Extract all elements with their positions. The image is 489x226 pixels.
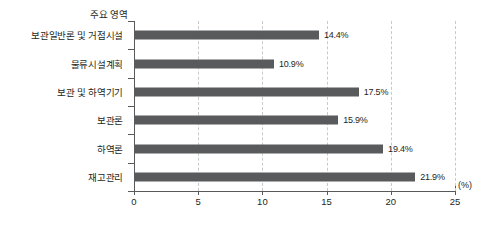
gridline (327, 21, 328, 191)
value-tick-mark (327, 191, 328, 195)
bar-chart: 주요 영역 보관일반론 및 거점시설물류시설계획보관 및 하역기기보관론하역론재… (0, 0, 489, 226)
value-tick-mark (391, 191, 392, 195)
value-tick-mark (198, 191, 199, 195)
category-label: 보관론 (0, 113, 128, 127)
gridline (262, 21, 263, 191)
category-label: 보관일반론 및 거점시설 (0, 28, 128, 42)
category-label: 하역론 (0, 142, 128, 156)
category-tick (128, 106, 134, 107)
value-tick-label: 0 (131, 196, 136, 207)
bar (134, 172, 415, 181)
bar-value-label: 14.4% (324, 30, 349, 40)
category-label: 물류시설계획 (0, 57, 128, 71)
gridline (455, 21, 456, 191)
gridline (198, 21, 199, 191)
bar-value-label: 15.9% (343, 115, 368, 125)
bar (134, 31, 319, 40)
category-tick (128, 163, 134, 164)
gridline (391, 21, 392, 191)
bar (134, 87, 359, 96)
value-tick-mark (134, 191, 135, 195)
bar-value-label: 17.5% (364, 87, 389, 97)
category-axis-title: 주요 영역 (0, 7, 128, 21)
bar-value-label: 21.9% (420, 172, 445, 182)
category-tick (128, 21, 134, 22)
category-tick (128, 49, 134, 50)
category-tick (128, 134, 134, 135)
value-tick-label: 20 (386, 196, 397, 207)
value-axis-line (134, 191, 456, 192)
bar-value-label: 10.9% (279, 59, 304, 69)
value-tick-label: 25 (450, 196, 461, 207)
category-tick (128, 78, 134, 79)
value-tick-label: 5 (196, 196, 201, 207)
value-tick-label: 10 (257, 196, 268, 207)
value-tick-label: 15 (321, 196, 332, 207)
bar (134, 116, 338, 125)
category-label: 재고관리 (0, 170, 128, 184)
bar (134, 144, 383, 153)
bar-value-label: 19.4% (388, 144, 413, 154)
category-label: 보관 및 하역기기 (0, 85, 128, 99)
plot-area (134, 21, 455, 191)
bar (134, 59, 274, 68)
unit-label: (%) (458, 180, 472, 190)
value-tick-mark (262, 191, 263, 195)
value-tick-mark (455, 191, 456, 195)
